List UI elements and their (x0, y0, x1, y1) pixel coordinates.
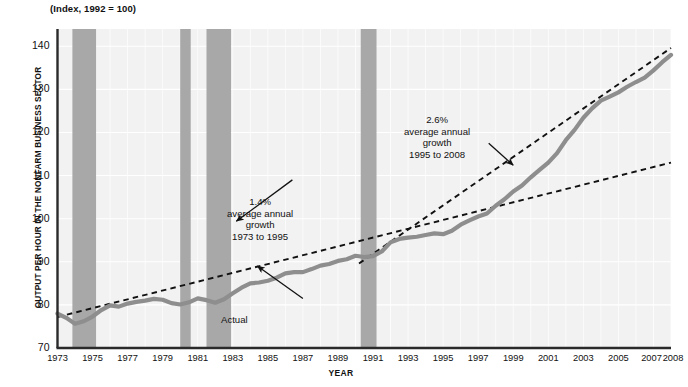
y-tick-label: 100 (16, 212, 50, 224)
x-tick-label: 1975 (73, 353, 113, 363)
growth-1995-2008-text: 2.6%average annualgrowth1995 to 2008 (404, 114, 470, 160)
x-tick-label: 1977 (108, 353, 148, 363)
y-tick-label: 110 (16, 169, 50, 181)
y-tick-label: 80 (16, 298, 50, 310)
x-tick-label: 1997 (458, 353, 498, 363)
annotation-line: average annual (404, 126, 470, 138)
x-tick-label: 1983 (213, 353, 253, 363)
annotation-line: Actual (221, 314, 248, 325)
growth-1973-1995-text: 1.4%average annualgrowth1973 to 1995 (227, 196, 293, 242)
chart-subtitle: (Index, 1992 = 100) (50, 3, 136, 14)
x-tick-label: 1987 (283, 353, 323, 363)
x-tick-label: 1991 (353, 353, 393, 363)
annotation-line: 1973 to 1995 (227, 231, 293, 243)
y-tick-label: 70 (16, 341, 50, 353)
x-tick-label: 1985 (248, 353, 288, 363)
recession-1990-1991 (361, 29, 377, 348)
x-tick-label: 1989 (318, 353, 358, 363)
recession-1973-1975 (72, 29, 96, 348)
actual-label-text: Actual (221, 314, 248, 325)
x-tick-label: 1995 (423, 353, 463, 363)
x-tick-label: 1993 (388, 353, 428, 363)
y-tick-label: 90 (16, 255, 50, 267)
x-tick-label: 1981 (178, 353, 218, 363)
annotation-line: 1995 to 2008 (404, 149, 470, 161)
x-tick-label: 1973 (38, 353, 78, 363)
y-axis-title: OUTPUT PER HOUR IN THE NONFARM BUSINESS … (34, 33, 43, 343)
annotation-line: average annual (227, 208, 293, 220)
x-tick-label: 1979 (143, 353, 183, 363)
annotation-line: growth (404, 137, 470, 149)
x-tick-label: 2008 (653, 353, 688, 363)
y-tick-label: 140 (16, 39, 50, 51)
x-tick-label: 2003 (563, 353, 603, 363)
x-axis-title: YEAR (0, 368, 682, 378)
annotation-line: 2.6% (404, 114, 470, 126)
annotation-line: 1.4% (227, 196, 293, 208)
annotation-line: growth (227, 219, 293, 231)
y-tick-label: 120 (16, 125, 50, 137)
x-tick-label: 2001 (528, 353, 568, 363)
x-tick-label: 1999 (493, 353, 533, 363)
y-tick-label: 130 (16, 82, 50, 94)
